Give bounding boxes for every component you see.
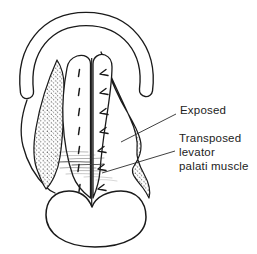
transposed-label-line1: Transposed bbox=[179, 132, 241, 144]
transposed-label-line3: palati muscle bbox=[179, 160, 249, 172]
transposed-label: Transposed levator palati muscle bbox=[179, 132, 249, 172]
surgical-diagram: Exposed Transposed levator palati muscle bbox=[0, 0, 257, 254]
exposed-leader-line bbox=[121, 114, 176, 142]
exposed-area-left bbox=[34, 60, 64, 189]
tongue-outline bbox=[46, 191, 146, 247]
exposed-label: Exposed bbox=[180, 104, 226, 116]
transposed-label-line2: levator bbox=[179, 146, 215, 158]
diagram-svg: Exposed Transposed levator palati muscle bbox=[0, 0, 257, 254]
